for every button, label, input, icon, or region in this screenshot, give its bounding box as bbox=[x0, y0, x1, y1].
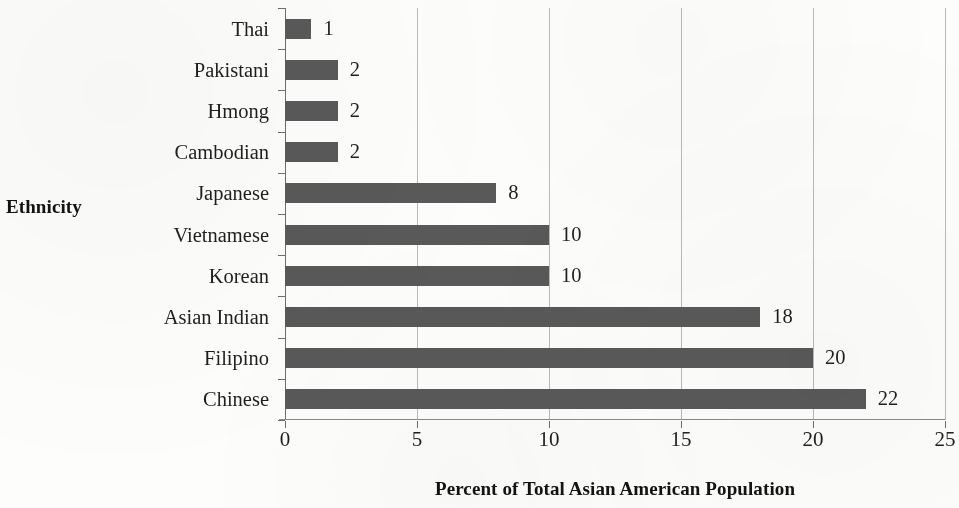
bar-value-label: 18 bbox=[772, 306, 793, 327]
y-axis-label-filipino: Filipino bbox=[204, 348, 269, 369]
x-axis-tick-labels: 0510152025 bbox=[285, 429, 945, 457]
y-axis-tick bbox=[278, 255, 285, 256]
x-axis-tick-label-20: 20 bbox=[803, 429, 824, 450]
x-axis-tick-label-10: 10 bbox=[539, 429, 560, 450]
bar-vietnamese bbox=[285, 225, 549, 245]
x-axis-tick-marks bbox=[285, 421, 945, 429]
y-axis-tick bbox=[278, 173, 285, 174]
x-axis-tick-label-0: 0 bbox=[280, 429, 291, 450]
bar-value-label: 10 bbox=[561, 224, 582, 245]
y-axis-label-hmong: Hmong bbox=[208, 101, 270, 122]
y-axis-tick bbox=[278, 338, 285, 339]
y-axis-tick bbox=[278, 132, 285, 133]
x-axis-tick-label-15: 15 bbox=[671, 429, 692, 450]
x-axis-title: Percent of Total Asian American Populati… bbox=[285, 478, 945, 500]
y-axis-title: Ethnicity bbox=[6, 196, 82, 218]
y-axis-tick bbox=[278, 214, 285, 215]
bar-value-label: 2 bbox=[350, 59, 360, 79]
bar-row: 2 bbox=[285, 101, 945, 121]
bar-row: 20 bbox=[285, 348, 945, 368]
y-axis-label-thai: Thai bbox=[231, 19, 269, 40]
bar-asian-indian bbox=[285, 307, 760, 327]
bar-value-label: 1 bbox=[323, 18, 333, 39]
bar-row: 2 bbox=[285, 142, 945, 162]
y-axis-label-chinese: Chinese bbox=[203, 389, 269, 410]
y-axis-label-vietnamese: Vietnamese bbox=[173, 225, 269, 246]
bar-korean bbox=[285, 266, 549, 286]
bar-chinese bbox=[285, 389, 866, 409]
y-axis-tick bbox=[278, 420, 285, 421]
y-axis-label-asian-indian: Asian Indian bbox=[164, 307, 269, 328]
x-axis-line bbox=[279, 419, 945, 420]
y-axis-label-pakistani: Pakistani bbox=[194, 60, 269, 81]
bar-value-label: 22 bbox=[878, 389, 899, 410]
x-axis-tick-label-25: 25 bbox=[935, 429, 956, 450]
bar-value-label: 20 bbox=[825, 348, 846, 369]
gridline-25 bbox=[945, 8, 946, 420]
bar-pakistani bbox=[285, 60, 338, 80]
bar-cambodian bbox=[285, 142, 338, 162]
x-axis-tick-label-5: 5 bbox=[412, 429, 423, 450]
bar-value-label: 10 bbox=[561, 265, 582, 286]
bar-chart: ThaiPakistaniHmongCambodianJapaneseVietn… bbox=[0, 0, 959, 508]
y-axis-label-japanese: Japanese bbox=[196, 183, 269, 204]
bar-row: 1 bbox=[285, 19, 945, 39]
bar-filipino bbox=[285, 348, 813, 368]
bar-thai bbox=[285, 19, 311, 39]
bar-value-label: 2 bbox=[350, 142, 360, 163]
bar-row: 18 bbox=[285, 307, 945, 327]
bar-row: 22 bbox=[285, 389, 945, 409]
bar-row: 2 bbox=[285, 60, 945, 80]
bar-row: 10 bbox=[285, 225, 945, 245]
bar-hmong bbox=[285, 101, 338, 121]
bar-value-label: 2 bbox=[350, 100, 360, 121]
y-axis-tick bbox=[278, 90, 285, 91]
y-axis-tick bbox=[278, 49, 285, 50]
y-axis-label-korean: Korean bbox=[209, 266, 269, 287]
y-axis-label-cambodian: Cambodian bbox=[174, 142, 269, 163]
y-axis-tick bbox=[278, 379, 285, 380]
bar-japanese bbox=[285, 183, 496, 203]
bar-row: 8 bbox=[285, 183, 945, 203]
bar-row: 10 bbox=[285, 266, 945, 286]
bar-value-label: 8 bbox=[508, 183, 518, 204]
y-axis-tick bbox=[278, 296, 285, 297]
y-axis-tick bbox=[278, 8, 285, 9]
plot-area: 122281010182022 bbox=[285, 8, 945, 420]
